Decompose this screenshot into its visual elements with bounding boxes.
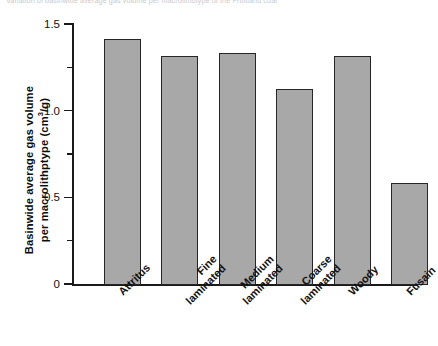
y-tick-major-0.5	[64, 197, 72, 199]
bar-series	[72, 24, 417, 285]
y-tick-label-1.5: 1.5	[18, 18, 60, 30]
y-tick-major-0	[64, 283, 72, 285]
y-tick-major-1.0	[64, 110, 72, 112]
y-tick-label-0.5: 0.5	[18, 191, 60, 203]
bar-medium-laminated	[219, 53, 256, 285]
figure-caption-fragment: Variation of basinwide average gas volum…	[6, 0, 430, 5]
y-tick-label-0: 0	[18, 278, 60, 290]
bar-woody	[334, 56, 371, 285]
y-tick-label-1.0: 1.0	[18, 105, 60, 117]
x-axis-category-labels: AttritusFinelaminatedMediumlaminatedCoar…	[72, 287, 417, 346]
y-axis-tick-labels: 00.51.01.5	[8, 0, 60, 346]
y-tick-major-1.5	[64, 23, 72, 25]
bar-attritus	[104, 39, 141, 285]
bar-coarse-laminated	[276, 89, 313, 285]
bar-fine-laminated	[161, 56, 198, 285]
figure-bar-chart: Variation of basinwide average gas volum…	[0, 0, 438, 346]
